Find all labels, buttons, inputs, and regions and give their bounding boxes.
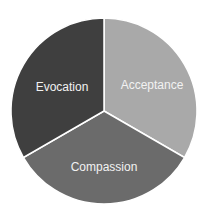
slice-label-evocation: Evocation	[36, 80, 89, 94]
pie-chart: Acceptance Compassion Evocation	[0, 0, 202, 215]
pie-slices	[11, 18, 197, 204]
slice-label-acceptance: Acceptance	[121, 78, 184, 92]
slice-label-compassion: Compassion	[71, 160, 138, 174]
